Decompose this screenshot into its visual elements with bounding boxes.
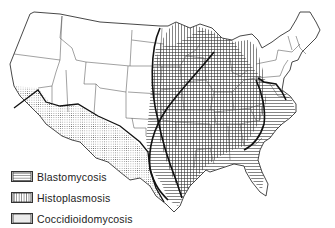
legend-item-blastomycosis: Blastomycosis — [11, 166, 133, 187]
legend-label: Blastomycosis — [37, 171, 107, 183]
vertical-lines-swatch-icon — [11, 192, 33, 203]
legend-label: Coccidioidomycosis — [37, 213, 133, 225]
horizontal-lines-swatch-icon — [11, 171, 33, 182]
legend-item-coccidioidomycosis: Coccidioidomycosis — [11, 208, 133, 228]
legend-item-histoplasmosis: Histoplasmosis — [11, 187, 133, 208]
dots-swatch-icon — [11, 213, 33, 224]
legend: Blastomycosis Histoplasmosis Coccidioido… — [11, 166, 133, 228]
legend-label: Histoplasmosis — [37, 192, 110, 204]
